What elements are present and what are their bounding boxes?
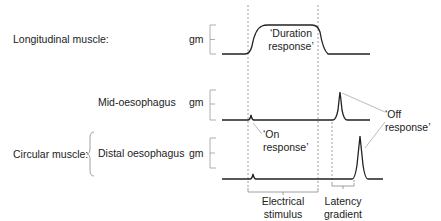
mid-oesophagus-label: Mid-oesophagus: [98, 96, 176, 109]
latency-line-1: Latency: [318, 195, 368, 208]
latency-bracket: [332, 183, 354, 189]
latency-line-2: gradient: [318, 208, 368, 221]
off-response-pointer-mid: [342, 93, 385, 112]
scale-bracket-mid: [210, 90, 216, 120]
longitudinal-unit-label: gm: [189, 33, 204, 46]
off-line-1: ‘Off: [385, 108, 431, 121]
duration-line-1: ‘Duration: [258, 27, 324, 40]
stimulus-line-2: stimulus: [253, 208, 313, 221]
longitudinal-muscle-label: Longitudinal muscle:: [13, 33, 109, 46]
latency-gradient-label: Latency gradient: [318, 195, 368, 221]
off-response-annotation: ‘Off response’: [385, 108, 431, 134]
scale-bracket-longitudinal: [210, 25, 216, 54]
stimulus-bracket: [248, 188, 318, 195]
off-response-pointer-distal: [365, 122, 385, 148]
scale-bracket-distal: [210, 138, 216, 168]
duration-line-2: response’: [258, 40, 324, 53]
distal-oesophagus-label: Distal oesophagus: [98, 147, 184, 160]
mid-unit-label: gm: [189, 96, 204, 109]
circular-muscle-label: Circular muscle:: [13, 148, 88, 161]
on-response-pointer: [253, 123, 262, 134]
off-line-2: response’: [385, 121, 431, 134]
distal-unit-label: gm: [189, 147, 204, 160]
on-line-1: ‘On: [263, 128, 309, 141]
stimulus-line-1: Electrical: [253, 195, 313, 208]
on-line-2: response’: [263, 141, 309, 154]
duration-response-annotation: ‘Duration response’: [258, 27, 324, 53]
electrical-stimulus-label: Electrical stimulus: [253, 195, 313, 221]
on-response-annotation: ‘On response’: [263, 128, 309, 154]
trace-mid: [222, 92, 370, 120]
